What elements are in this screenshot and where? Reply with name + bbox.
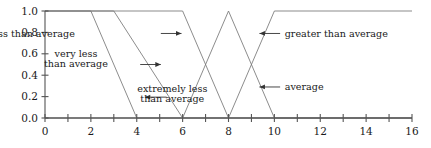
- y-tick-label: 0.6: [21, 47, 38, 59]
- annotations-group: less than averagevery lessthan averageex…: [0, 28, 388, 105]
- fuzzy-membership-chart: 0.00.20.40.60.81.0 0246810121416 less th…: [0, 0, 431, 148]
- annotation-label: less than average: [0, 28, 75, 39]
- y-axis-tick-labels: 0.00.20.40.60.81.0: [21, 5, 38, 124]
- annotation-greater-than-average: greater than average: [259, 28, 388, 39]
- y-tick-label: 0.4: [21, 69, 38, 81]
- annotation-label: average: [285, 81, 324, 92]
- x-tick-label: 12: [314, 125, 327, 137]
- x-tick-label: 0: [42, 125, 49, 137]
- x-tick-label: 16: [405, 125, 419, 137]
- y-tick-label: 1.0: [21, 5, 38, 17]
- x-tick-label: 10: [268, 125, 281, 137]
- annotation-label: greater than average: [285, 28, 389, 39]
- annotation-arrow-head: [155, 62, 161, 67]
- annotation-label: than average: [140, 93, 204, 104]
- x-tick-label: 4: [133, 125, 140, 137]
- y-tick-label: 0.0: [21, 112, 38, 124]
- annotation-average: average: [259, 81, 323, 92]
- x-tick-label: 6: [179, 125, 186, 137]
- annotation-arrow-head: [176, 31, 182, 36]
- annotation-extremely-less-than-average: extremely lessthan average: [137, 83, 207, 104]
- x-tick-label: 14: [359, 125, 373, 137]
- chart-canvas: 0.00.20.40.60.81.0 0246810121416 less th…: [0, 0, 431, 148]
- annotation-arrow-head: [259, 31, 265, 36]
- annotation-less-than-average: less than average: [0, 28, 181, 39]
- y-tick-label: 0.2: [21, 90, 38, 102]
- x-tick-label: 8: [225, 125, 232, 137]
- annotation-very-less-than-average: very lessthan average: [44, 48, 161, 69]
- x-tick-label: 2: [88, 125, 95, 137]
- annotation-label: than average: [44, 58, 108, 69]
- x-axis-tick-labels: 0246810121416: [42, 125, 419, 137]
